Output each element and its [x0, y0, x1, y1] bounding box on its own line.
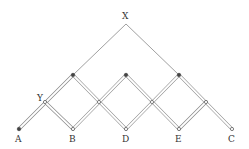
label-x: X: [122, 11, 129, 21]
pin-y: [43, 100, 46, 103]
pin-m3: [204, 100, 207, 103]
pin-a: [17, 127, 21, 131]
pin-c: [230, 127, 233, 130]
label-a: A: [14, 134, 22, 144]
label-e: E: [175, 134, 182, 144]
pin-e: [177, 127, 180, 130]
label-y: Y: [36, 93, 44, 103]
label-b: B: [69, 134, 76, 144]
label-c: C: [228, 134, 235, 144]
label-d: D: [122, 134, 129, 144]
linkage-diagram: X Y A B D E C: [0, 0, 249, 149]
line-x-right: [126, 24, 179, 75]
pin-t1: [71, 73, 75, 77]
pin-t3: [177, 73, 181, 77]
line-x-left: [73, 24, 126, 75]
linkage-pins: [17, 73, 233, 131]
pin-m2: [150, 100, 153, 103]
pin-d: [124, 127, 127, 130]
bar-y-b: [45, 102, 73, 129]
linkage-bars: [19, 75, 232, 129]
pin-t2: [124, 73, 128, 77]
pin-b: [71, 127, 74, 130]
pin-m1: [97, 100, 100, 103]
bar-e-m3: [179, 102, 206, 129]
